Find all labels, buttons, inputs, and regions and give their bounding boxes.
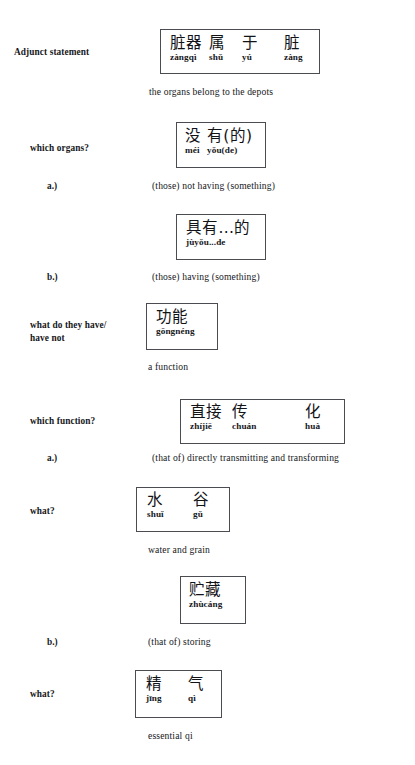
row-label-what-do-they-have: what do they have/ have not (30, 319, 106, 344)
phrase-cell: 谷 gǔ (193, 492, 209, 520)
phrase-cell: 贮藏 zhùcáng (189, 582, 222, 610)
pinyin-text: zhíjiē (190, 421, 223, 432)
phrase-box-juyou-de: 具有...的 jùyǒu...de (176, 214, 266, 260)
pinyin-text: zàngqì (170, 52, 203, 63)
pinyin-text: chuán (232, 421, 257, 432)
diagram-canvas: Adjunct statement 脏器 zàngqì 属 shǔ 于 yú 脏… (0, 0, 415, 765)
phrase-box-zhucang: 贮藏 zhùcáng (180, 576, 246, 624)
han-text: 脏器 (170, 35, 203, 52)
han-text: 直接 (190, 404, 223, 421)
han-text: 水 (147, 492, 164, 509)
gloss-line: the organs belong to the depots (149, 86, 273, 98)
phrase-cell: 水 shuǐ (147, 492, 164, 520)
enumerator-b-1: b.) (47, 271, 58, 283)
pinyin-text: shǔ (209, 52, 225, 63)
row-label-what-2: what? (30, 688, 55, 701)
gloss-line: water and grain (148, 544, 210, 556)
phrase-cell: 于 yú (242, 35, 258, 63)
pinyin-text: yú (242, 52, 258, 63)
pinyin-text: méi (185, 145, 201, 156)
han-text: 于 (242, 35, 258, 52)
enumerator-b-2: b.) (47, 636, 58, 648)
phrase-cell: 有(的) yǒu(de) (207, 128, 252, 156)
pinyin-text: yǒu(de) (207, 145, 252, 156)
pinyin-text: gōngnéng (156, 326, 195, 337)
han-text: 传 (232, 404, 257, 421)
row-label-which-function: which function? (30, 415, 95, 428)
enumerator-a-2: a.) (47, 452, 57, 464)
pinyin-text: shuǐ (147, 509, 164, 520)
han-text: 具有...的 (186, 220, 251, 237)
phrase-cell: 传 chuán (232, 404, 257, 432)
han-text: 没 (185, 128, 201, 145)
pinyin-text: gǔ (193, 509, 209, 520)
phrase-cell: 没 méi (185, 128, 201, 156)
phrase-box-gongneng: 功能 gōngnéng (146, 303, 218, 350)
gloss-line: a function (148, 361, 188, 373)
han-text: 化 (305, 404, 321, 421)
enumerator-a-1: a.) (47, 180, 57, 192)
gloss-line: (those) not having (something) (152, 180, 275, 192)
phrase-cell: 气 qì (188, 676, 204, 704)
pinyin-text: qì (188, 693, 204, 704)
han-text: 脏 (284, 35, 303, 52)
pinyin-text: jīng (146, 693, 162, 704)
gloss-line: (those) having (something) (152, 271, 260, 283)
pinyin-text: huà (305, 421, 321, 432)
phrase-box-zhijie-chuan-hua: 直接 zhíjiē 传 chuán 化 huà (180, 399, 345, 444)
phrase-box-mei-youde: 没 méi 有(的) yǒu(de) (176, 122, 266, 168)
pinyin-text: jùyǒu...de (186, 237, 251, 248)
han-text: 贮藏 (189, 582, 222, 599)
han-text: 气 (188, 676, 204, 693)
row-label-which-organs: which organs? (30, 142, 89, 155)
phrase-cell: 脏 zàng (284, 35, 303, 63)
phrase-box-shui-gu: 水 shuǐ 谷 gǔ (136, 487, 230, 532)
phrase-cell: 属 shǔ (209, 35, 225, 63)
phrase-box-jing-qi: 精 jīng 气 qì (135, 670, 222, 718)
han-text: 有(的) (207, 128, 252, 145)
pinyin-text: zàng (284, 52, 303, 63)
phrase-cell: 化 huà (305, 404, 321, 432)
han-text: 功能 (156, 309, 195, 326)
phrase-cell: 功能 gōngnéng (156, 309, 195, 337)
phrase-cell: 精 jīng (146, 676, 162, 704)
gloss-line: (that of) directly transmitting and tran… (152, 452, 339, 464)
phrase-cell: 直接 zhíjiē (190, 404, 223, 432)
phrase-cell: 具有...的 jùyǒu...de (186, 220, 251, 248)
gloss-line: (that of) storing (148, 636, 211, 648)
pinyin-text: zhùcáng (189, 599, 222, 610)
phrase-cell: 脏器 zàngqì (170, 35, 203, 63)
gloss-line: essential qi (148, 730, 193, 742)
row-label-adjunct-statement: Adjunct statement (14, 46, 89, 59)
han-text: 属 (209, 35, 225, 52)
phrase-box-zangqi-shu-yu-zang: 脏器 zàngqì 属 shǔ 于 yú 脏 zàng (160, 29, 320, 74)
row-label-what-1: what? (30, 505, 55, 518)
han-text: 精 (146, 676, 162, 693)
han-text: 谷 (193, 492, 209, 509)
